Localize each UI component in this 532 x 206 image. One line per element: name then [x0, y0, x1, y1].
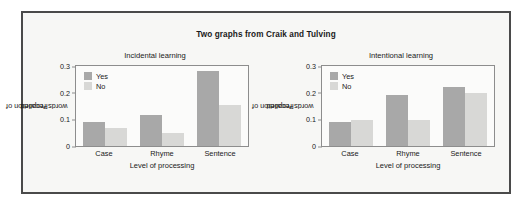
- figure-frame: Two graphs from Craik and Tulving Incide…: [21, 11, 511, 194]
- bar-group-sentence: [443, 66, 487, 146]
- y-tick-0.1: 0.1: [36, 115, 76, 124]
- legend-swatch-icon-no: [84, 82, 92, 90]
- legend-label-yes: Yes: [342, 72, 354, 81]
- y-tick-0.3: 0.3: [36, 62, 76, 71]
- bar-case-yes: [329, 122, 351, 146]
- bar-case-no: [105, 128, 127, 146]
- x-tick-case: Case: [327, 149, 373, 158]
- y-tick-0.1: 0.1: [282, 115, 322, 124]
- y-tick-0.3: 0.3: [282, 62, 322, 71]
- figure-title: Two graphs from Craik and Tulving: [23, 30, 509, 39]
- bar-group-rhyme: [386, 66, 430, 146]
- x-axis-ticks: Case Rhyme Sentence: [321, 149, 495, 158]
- legend-item-no: No: [330, 81, 354, 91]
- plot-area: 0 0.1 0.2 0.3: [321, 65, 495, 147]
- bar-group-rhyme: [140, 66, 184, 146]
- y-axis-label: Proportion of words recalled: [26, 65, 46, 147]
- bar-group-sentence: [197, 66, 241, 146]
- x-axis-ticks: Case Rhyme Sentence: [75, 149, 249, 158]
- legend: Yes No: [330, 71, 354, 91]
- legend-item-yes: Yes: [84, 71, 108, 81]
- chart-panel-incidental: Incidental learning Proportion of words …: [27, 51, 255, 181]
- x-tick-sentence: Sentence: [197, 149, 243, 158]
- legend-item-yes: Yes: [330, 71, 354, 81]
- legend-swatch-icon-no: [330, 82, 338, 90]
- y-axis-label: Proportion of words recalled: [272, 65, 292, 147]
- chart-panel-intentional: Intentional learning Proportion of words…: [273, 51, 501, 181]
- chart-title: Incidental learning: [55, 51, 255, 60]
- bar-rhyme-yes: [140, 115, 162, 146]
- bar-case-no: [351, 120, 373, 146]
- legend-swatch-icon-yes: [84, 72, 92, 80]
- bar-case-yes: [83, 122, 105, 146]
- legend: Yes No: [84, 71, 108, 91]
- legend-swatch-icon-yes: [330, 72, 338, 80]
- plot-area: 0 0.1 0.2 0.3: [75, 65, 249, 147]
- bar-sentence-no: [465, 93, 487, 146]
- legend-label-yes: Yes: [96, 72, 108, 81]
- x-tick-sentence: Sentence: [443, 149, 489, 158]
- y-axis-label-line2: words recalled: [267, 102, 314, 111]
- x-axis-label: Level of processing: [75, 161, 249, 170]
- legend-label-no: No: [342, 82, 351, 91]
- y-tick-0: 0: [282, 142, 322, 151]
- x-tick-case: Case: [81, 149, 127, 158]
- bar-rhyme-no: [162, 133, 184, 146]
- legend-item-no: No: [84, 81, 108, 91]
- bar-sentence-yes: [443, 87, 465, 146]
- bar-sentence-no: [219, 105, 241, 146]
- y-tick-0.2: 0.2: [282, 88, 322, 97]
- x-tick-rhyme: Rhyme: [139, 149, 185, 158]
- bar-rhyme-yes: [386, 95, 408, 146]
- x-tick-rhyme: Rhyme: [385, 149, 431, 158]
- x-axis-label: Level of processing: [321, 161, 495, 170]
- legend-label-no: No: [96, 82, 105, 91]
- y-tick-0.2: 0.2: [36, 88, 76, 97]
- chart-title: Intentional learning: [301, 51, 501, 60]
- bar-rhyme-no: [408, 120, 430, 146]
- y-axis-label-line2: words recalled: [21, 102, 68, 111]
- y-tick-0: 0: [36, 142, 76, 151]
- bar-sentence-yes: [197, 71, 219, 146]
